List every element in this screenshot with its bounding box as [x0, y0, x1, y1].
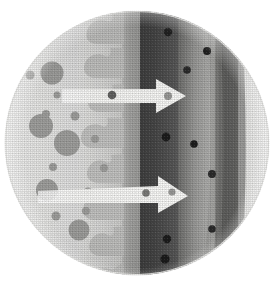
cross-section-diagram [0, 0, 276, 294]
figure-container: Circular cross-section micrograph diagra… [0, 0, 276, 294]
